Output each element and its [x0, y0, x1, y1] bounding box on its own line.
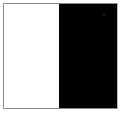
split-panel-frame [3, 3, 118, 109]
white-half [4, 4, 59, 108]
speck-dot [103, 14, 105, 16]
black-half [59, 4, 117, 108]
